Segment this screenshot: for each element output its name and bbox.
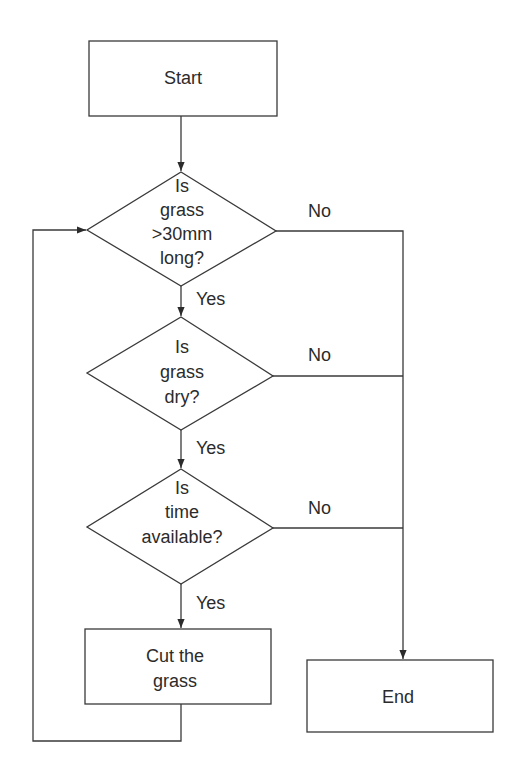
start-text: Start — [164, 68, 202, 88]
flowchart: No Yes No Yes No Yes Start Is grass >30m… — [0, 0, 518, 781]
decision-grass-long-line-4: long? — [160, 248, 204, 268]
node-end: End — [307, 660, 493, 732]
edges — [33, 116, 403, 741]
decision-grass-long-line-1: Is — [175, 176, 189, 196]
node-cut: Cut the grass — [85, 629, 271, 704]
decision-grass-dry-line-3: dry? — [164, 387, 199, 407]
edge-label-q-time-no: No — [308, 498, 331, 518]
decision-time-available-line-2: time — [165, 502, 199, 522]
edge-label-q-long-yes: Yes — [196, 289, 225, 309]
node-start: Start — [89, 41, 277, 116]
cut-grass-line-2: grass — [153, 671, 197, 691]
edge-q-long-no — [276, 231, 403, 659]
edge-label-q-dry-no: No — [308, 345, 331, 365]
node-q-dry: Is grass dry? — [87, 317, 273, 430]
end-text: End — [382, 687, 414, 707]
decision-grass-dry-line-1: Is — [175, 337, 189, 357]
edge-labels: No Yes No Yes No Yes — [196, 201, 331, 613]
decision-grass-long-line-3: >30mm — [152, 224, 213, 244]
node-q-time: Is time available? — [87, 469, 273, 584]
decision-time-available-line-3: available? — [141, 527, 222, 547]
decision-grass-dry-line-2: grass — [160, 362, 204, 382]
cut-grass-line-1: Cut the — [146, 646, 204, 666]
decision-time-available-line-1: Is — [175, 478, 189, 498]
node-q-long: Is grass >30mm long? — [87, 172, 276, 286]
edge-label-q-dry-yes: Yes — [196, 438, 225, 458]
edge-label-q-long-no: No — [308, 201, 331, 221]
decision-grass-long-line-2: grass — [160, 200, 204, 220]
edge-label-q-time-yes: Yes — [196, 593, 225, 613]
cut-grass-box — [85, 629, 271, 704]
